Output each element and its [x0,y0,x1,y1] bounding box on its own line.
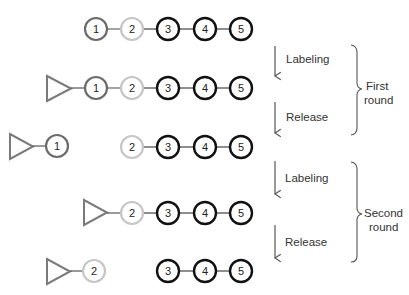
label-tag-triangle-icon [47,259,70,284]
svg-text:5: 5 [238,207,244,219]
element-2: 2 [121,77,143,99]
round-first: First round [351,45,393,135]
svg-text:2: 2 [129,207,135,219]
svg-text:2: 2 [129,82,135,94]
element-4: 4 [194,77,216,99]
svg-text:2: 2 [91,265,97,277]
svg-text:4: 4 [202,265,208,277]
element-2: 2 [121,18,143,40]
step-labeling-1: Labeling [275,46,329,76]
element-3: 3 [157,202,179,224]
svg-text:3: 3 [165,82,171,94]
row-second-labeled: 2 3 4 5 [84,200,252,225]
element-5: 5 [230,136,252,158]
row-first-released: 1 2 3 4 5 [10,134,252,159]
svg-text:First: First [366,80,389,92]
svg-text:1: 1 [93,23,99,35]
svg-text:Second: Second [364,207,403,219]
element-3: 3 [157,18,179,40]
diagram-canvas: 1 2 3 4 5 1 2 3 4 5 1 2 3 4 5 [0,0,409,295]
element-5: 5 [230,260,252,282]
element-2: 2 [121,136,143,158]
row-first-labeled: 1 2 3 4 5 [47,76,252,101]
element-4: 4 [194,260,216,282]
element-1: 1 [85,77,107,99]
element-5: 5 [230,77,252,99]
element-4: 4 [194,136,216,158]
element-4: 4 [194,202,216,224]
svg-text:Release: Release [286,111,328,123]
svg-text:Labeling: Labeling [286,53,329,65]
svg-text:5: 5 [238,141,244,153]
step-release-2: Release [275,225,327,258]
step-release-1: Release [275,102,328,133]
svg-text:4: 4 [202,82,208,94]
brace-icon [351,162,362,262]
row-second-released: 2 3 4 5 [47,259,252,284]
svg-text:4: 4 [202,141,208,153]
svg-text:3: 3 [165,207,171,219]
svg-text:5: 5 [238,82,244,94]
svg-text:4: 4 [202,23,208,35]
label-tag-triangle-icon [84,200,107,225]
element-3: 3 [157,136,179,158]
svg-text:5: 5 [238,265,244,277]
round-second: Second round [351,162,403,262]
element-2: 2 [83,260,105,282]
element-1: 1 [85,18,107,40]
svg-text:Labeling: Labeling [285,172,328,184]
element-4: 4 [194,18,216,40]
svg-text:3: 3 [165,265,171,277]
svg-text:round: round [364,94,393,106]
brace-icon [351,45,362,135]
svg-text:5: 5 [238,23,244,35]
svg-text:4: 4 [202,207,208,219]
element-1: 1 [46,135,68,157]
element-3: 3 [157,77,179,99]
step-labeling-2: Labeling [275,161,328,194]
svg-text:Release: Release [285,236,327,248]
element-5: 5 [230,202,252,224]
svg-text:round: round [369,221,398,233]
label-tag-triangle-icon [10,134,33,159]
row-initial: 1 2 3 4 5 [85,18,252,40]
label-tag-triangle-icon [47,76,71,101]
element-2: 2 [121,202,143,224]
element-3: 3 [157,260,179,282]
svg-text:1: 1 [93,82,99,94]
svg-text:2: 2 [129,141,135,153]
svg-text:2: 2 [129,23,135,35]
element-5: 5 [230,18,252,40]
svg-text:3: 3 [165,23,171,35]
svg-text:3: 3 [165,141,171,153]
svg-text:1: 1 [54,140,60,152]
